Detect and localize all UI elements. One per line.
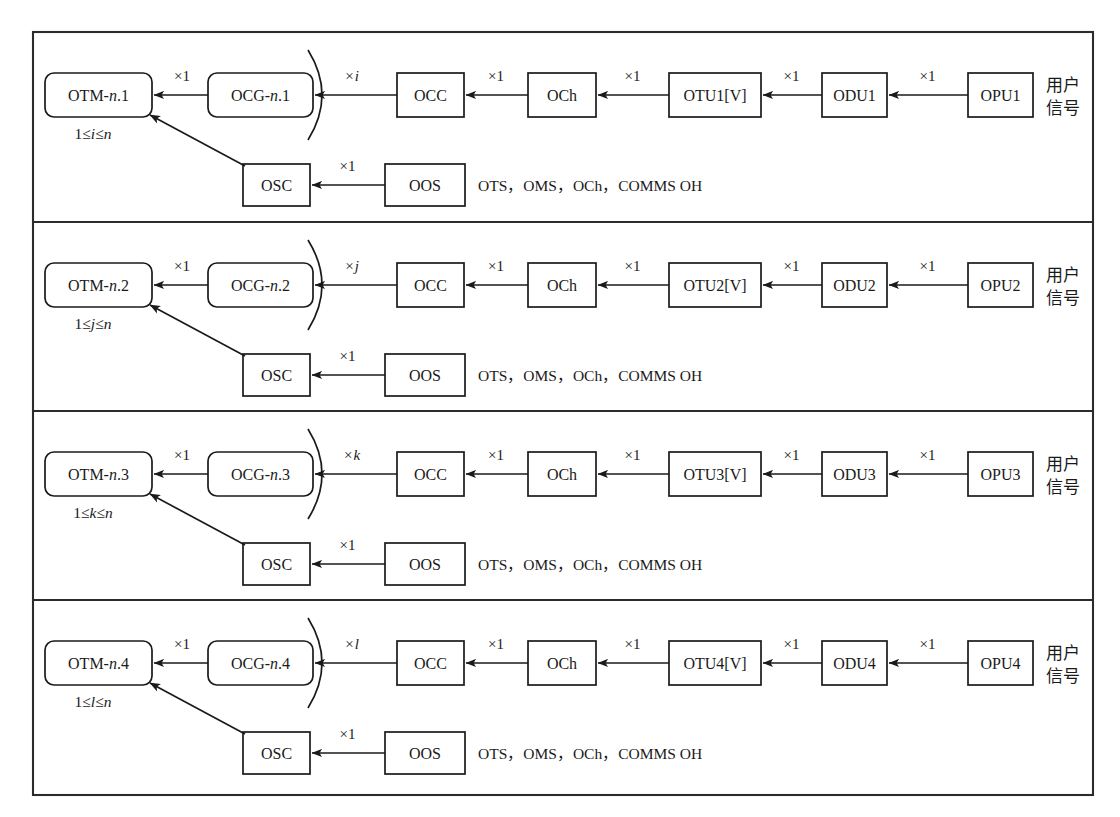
otu-label: OTU4[V] (683, 655, 746, 672)
multiplier-ocg-to-otm: ×1 (174, 258, 190, 274)
multiplier-och-to-occ: ×1 (488, 636, 504, 652)
oos-label: OOS (409, 745, 441, 762)
multiplier-otu-to-och: ×1 (625, 447, 641, 463)
multiplier-opu-to-odu: ×1 (920, 447, 936, 463)
user-signal-line1: 用户 (1046, 643, 1080, 663)
overhead-note: OTS，OMS，OCh，COMMS OH (478, 367, 702, 384)
multiplier-oos-to-osc: ×1 (340, 158, 356, 174)
multiplier-och-to-occ: ×1 (488, 447, 504, 463)
osc-label: OSC (261, 556, 292, 573)
ocg-label: OCG-n.2 (231, 277, 290, 294)
diagram-row-2: OTM-n.2OCG-n.2OCCOChOTU2[V]ODU2OPU2×1×j×… (45, 240, 1080, 396)
user-signal-line2: 信号 (1046, 288, 1080, 308)
opu-label: OPU4 (980, 655, 1020, 672)
otu-label: OTU2[V] (683, 277, 746, 294)
multiplier-otu-to-och: ×1 (625, 636, 641, 652)
odu-label: ODU1 (833, 87, 876, 104)
oos-label: OOS (409, 556, 441, 573)
multiplier-oos-to-osc: ×1 (340, 348, 356, 364)
multiplier-arc-ocg: ×j (345, 258, 359, 274)
user-signal-line2: 信号 (1046, 477, 1080, 497)
multiplier-odu-to-otu: ×1 (784, 447, 800, 463)
multiplier-oos-to-osc: ×1 (340, 726, 356, 742)
och-label: OCh (547, 466, 577, 483)
multiplier-opu-to-odu: ×1 (920, 258, 936, 274)
occ-label: OCC (414, 466, 447, 483)
oos-label: OOS (409, 367, 441, 384)
diagram-row-4: OTM-n.4OCG-n.4OCCOChOTU4[V]ODU4OPU4×1×l×… (45, 618, 1080, 774)
multiplier-otu-to-och: ×1 (625, 68, 641, 84)
multiplier-odu-to-otu: ×1 (784, 68, 800, 84)
multiplier-otu-to-och: ×1 (625, 258, 641, 274)
otm-label: OTM-n.1 (68, 87, 129, 104)
multiplier-ocg-to-otm: ×1 (174, 636, 190, 652)
osc-label: OSC (261, 745, 292, 762)
multiplier-arc-ocg: ×i (345, 68, 359, 84)
osc-label: OSC (261, 367, 292, 384)
multiplier-opu-to-odu: ×1 (920, 68, 936, 84)
user-signal-line1: 用户 (1046, 265, 1080, 285)
multiplier-ocg-to-otm: ×1 (174, 68, 190, 84)
odu-label: ODU4 (833, 655, 876, 672)
opu-label: OPU3 (980, 466, 1020, 483)
otu-label: OTU3[V] (683, 466, 746, 483)
user-signal-line2: 信号 (1046, 666, 1080, 686)
ocg-label: OCG-n.3 (231, 466, 290, 483)
user-signal-line2: 信号 (1046, 98, 1080, 118)
ocg-label: OCG-n.4 (231, 655, 290, 672)
user-signal-line1: 用户 (1046, 454, 1080, 474)
occ-label: OCC (414, 277, 447, 294)
diagram-row-3: OTM-n.3OCG-n.3OCCOChOTU3[V]ODU3OPU3×1×k×… (45, 429, 1080, 585)
otm-label: OTM-n.4 (68, 655, 129, 672)
user-signal-line1: 用户 (1046, 75, 1080, 95)
multiplier-oos-to-osc: ×1 (340, 537, 356, 553)
otm-range-label: 1≤k≤n (73, 504, 113, 521)
arrow-osc-to-otm (150, 115, 245, 166)
overhead-note: OTS，OMS，OCh，COMMS OH (478, 745, 702, 762)
otm-range-label: 1≤j≤n (75, 315, 112, 332)
diagram-canvas: OTM-n.1OCG-n.1OCCOChOTU1[V]ODU1OPU1×1×i×… (0, 0, 1120, 817)
diagram-row-1: OTM-n.1OCG-n.1OCCOChOTU1[V]ODU1OPU1×1×i×… (45, 50, 1080, 206)
multiplier-och-to-occ: ×1 (488, 258, 504, 274)
multiplier-och-to-occ: ×1 (488, 68, 504, 84)
multiplier-arc-ocg: ×l (345, 636, 359, 652)
otu-label: OTU1[V] (683, 87, 746, 104)
multiplier-odu-to-otu: ×1 (784, 636, 800, 652)
multiplier-arc-ocg: ×k (344, 447, 360, 463)
arrow-osc-to-otm (150, 683, 245, 734)
odu-label: ODU2 (833, 277, 876, 294)
otm-label: OTM-n.3 (68, 466, 129, 483)
otm-range-label: 1≤i≤n (75, 125, 112, 142)
och-label: OCh (547, 277, 577, 294)
occ-label: OCC (414, 655, 447, 672)
opu-label: OPU2 (980, 277, 1020, 294)
overhead-note: OTS，OMS，OCh，COMMS OH (478, 177, 702, 194)
ocg-label: OCG-n.1 (231, 87, 290, 104)
occ-label: OCC (414, 87, 447, 104)
osc-label: OSC (261, 177, 292, 194)
multiplier-odu-to-otu: ×1 (784, 258, 800, 274)
arrow-osc-to-otm (150, 305, 245, 356)
arrow-osc-to-otm (150, 494, 245, 545)
multiplier-opu-to-odu: ×1 (920, 636, 936, 652)
och-label: OCh (547, 655, 577, 672)
figure-root: OTM-n.1OCG-n.1OCCOChOTU1[V]ODU1OPU1×1×i×… (0, 0, 1120, 817)
multiplier-ocg-to-otm: ×1 (174, 447, 190, 463)
oos-label: OOS (409, 177, 441, 194)
otm-range-label: 1≤l≤n (75, 693, 112, 710)
otm-label: OTM-n.2 (68, 277, 129, 294)
och-label: OCh (547, 87, 577, 104)
opu-label: OPU1 (980, 87, 1020, 104)
overhead-note: OTS，OMS，OCh，COMMS OH (478, 556, 702, 573)
odu-label: ODU3 (833, 466, 876, 483)
